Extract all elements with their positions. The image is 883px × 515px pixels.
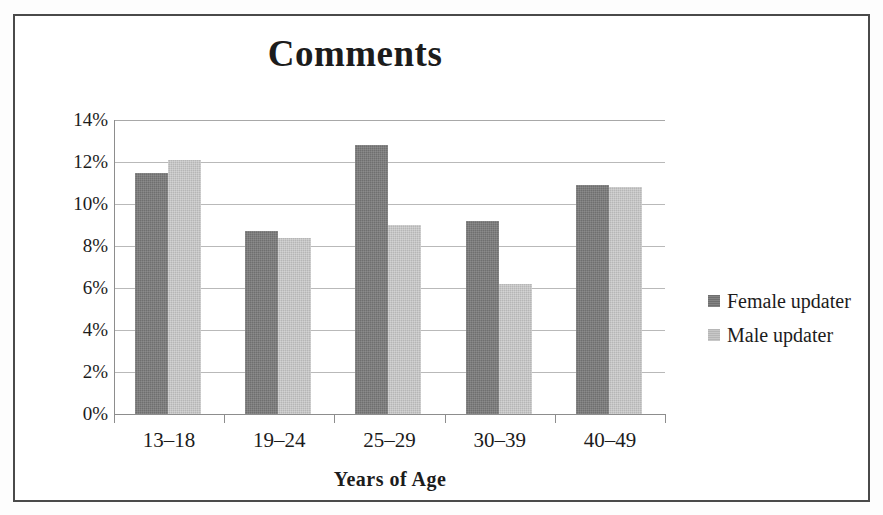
bar-group [114, 120, 224, 414]
x-axis-line [114, 414, 666, 415]
bar-female [466, 221, 499, 414]
y-axis-tick-label: 2% [46, 361, 108, 383]
x-axis-tick-label: 40–49 [555, 428, 665, 453]
bar-male [168, 160, 201, 414]
bar-female [245, 231, 278, 414]
chart-frame: Comments 14%12%10%8%6%4%2%0% 13–1819–242… [13, 14, 870, 502]
y-axis-tick-label: 4% [46, 319, 108, 341]
x-axis-tick-mark [224, 415, 225, 423]
y-axis-tick-label: 8% [46, 235, 108, 257]
y-axis-tick-label: 10% [46, 193, 108, 215]
bar-group [555, 120, 665, 414]
x-axis-tick-mark [114, 415, 115, 423]
x-axis-tick-mark [445, 415, 446, 423]
x-axis-tick-mark [555, 415, 556, 423]
y-axis-tick-label: 0% [46, 403, 108, 425]
x-axis-tick-mark [665, 415, 666, 423]
legend-item: Male updater [708, 318, 851, 352]
y-axis-tick-labels: 14%12%10%8%6%4%2%0% [38, 16, 108, 515]
bar-male [388, 225, 421, 414]
y-axis-tick-label: 12% [46, 151, 108, 173]
x-axis-tick-label: 13–18 [114, 428, 224, 453]
x-axis-tick-mark [334, 415, 335, 423]
y-axis-tick-label: 6% [46, 277, 108, 299]
y-axis-tick-label: 14% [46, 109, 108, 131]
bar-group [334, 120, 444, 414]
bar-female [355, 145, 388, 414]
legend-item: Female updater [708, 284, 851, 318]
bar-female [135, 173, 168, 415]
bar-female [576, 185, 609, 414]
chart-title: Comments [15, 32, 695, 75]
chart-legend: Female updaterMale updater [708, 284, 851, 352]
legend-label: Female updater [727, 290, 851, 313]
x-axis-tick-label: 19–24 [224, 428, 334, 453]
legend-swatch-icon [708, 329, 720, 341]
x-axis-tick-label: 25–29 [335, 428, 445, 453]
y-axis-line [114, 120, 115, 415]
bar-group [224, 120, 334, 414]
chart-screenshot: Comments 14%12%10%8%6%4%2%0% 13–1819–242… [0, 0, 883, 515]
bar-male [278, 238, 311, 414]
legend-label: Male updater [727, 324, 833, 347]
plot-area [114, 120, 665, 414]
bar-male [499, 284, 532, 414]
x-axis-tick-label: 30–39 [445, 428, 555, 453]
bar-male [609, 187, 642, 414]
x-axis-title: Years of Age [114, 468, 666, 491]
bar-group [445, 120, 555, 414]
legend-swatch-icon [708, 295, 720, 307]
